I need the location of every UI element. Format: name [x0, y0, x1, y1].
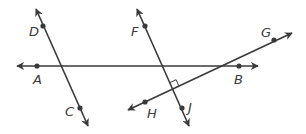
point-a [34, 63, 39, 68]
geometry-diagram: ABCDFGHJ [0, 0, 306, 134]
point-d [40, 23, 45, 28]
label-d: D [29, 24, 39, 39]
point-c [77, 105, 82, 110]
point-b [236, 63, 241, 68]
label-g: G [261, 25, 271, 40]
label-j: J [185, 100, 192, 115]
label-a: A [32, 72, 42, 87]
label-c: C [65, 104, 75, 119]
point-h [142, 99, 147, 104]
point-f [142, 23, 147, 28]
point-g [271, 37, 276, 42]
point-j [179, 105, 184, 110]
label-h: H [147, 106, 157, 121]
label-b: B [234, 72, 243, 87]
label-f: F [131, 24, 139, 39]
